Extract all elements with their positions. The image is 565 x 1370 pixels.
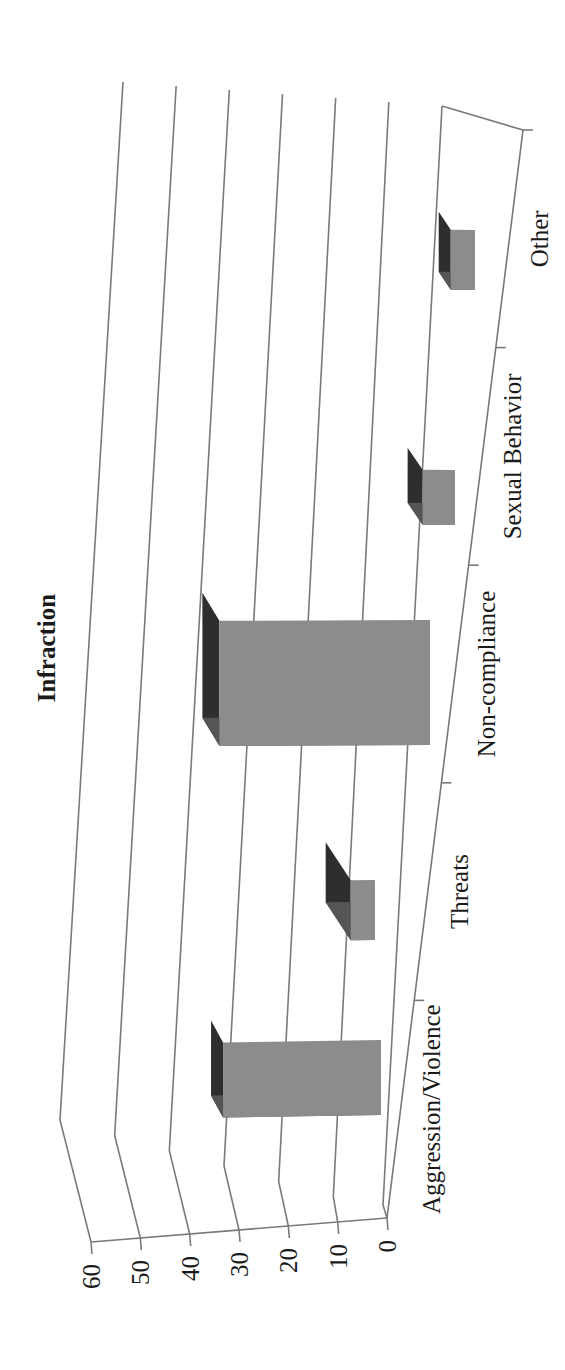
chart-title: Infraction [33,594,60,702]
bar-front-face [223,1040,381,1118]
x-category-label: Other [526,210,553,268]
y-tick-label: 40 [177,1256,204,1281]
bar-front-face [423,470,455,525]
bar-front-face [219,620,430,746]
bars [202,212,475,1118]
bar-front-face [351,880,375,940]
bar-front-face [451,230,475,290]
x-category-label: Sexual Behavior [499,373,526,540]
y-tick-label: 30 [226,1252,253,1277]
y-tick-label: 20 [275,1248,302,1273]
x-category-label: Non-compliance [473,591,500,758]
y-tick-label: 50 [127,1260,154,1285]
x-category-label: Threats [446,854,473,929]
y-tick-label: 0 [374,1240,401,1253]
x-axis-categories: Aggression/ViolenceThreatsNon-compliance… [414,210,553,1214]
infraction-bar-chart: 0102030405060 Aggression/ViolenceThreats… [0,0,565,1370]
gridline [115,86,177,1238]
y-tick-label: 60 [78,1264,105,1289]
gridline [60,82,123,1242]
y-tick-label: 10 [325,1244,352,1269]
x-category-label: Aggression/Violence [418,1004,445,1214]
